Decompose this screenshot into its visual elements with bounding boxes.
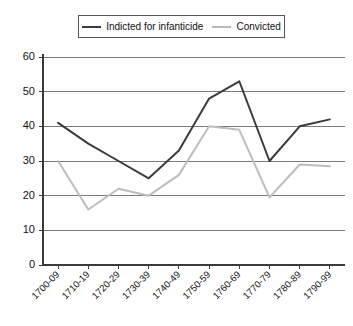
y-tick-label: 60 — [23, 50, 35, 62]
series-line-indicted — [58, 81, 330, 178]
x-tick-label: 1700-09 — [29, 269, 61, 301]
x-tick-label: 1780-89 — [271, 269, 303, 301]
legend-label-convicted: Convicted — [236, 21, 280, 32]
legend-entry-convicted: Convicted — [212, 21, 280, 32]
x-tick-label: 1760-69 — [210, 269, 242, 301]
y-tick-label: 0 — [29, 258, 35, 270]
x-tick-label: 1770-79 — [240, 269, 272, 301]
y-tick-label: 30 — [23, 154, 35, 166]
legend-entry-indicted: Indicted for infanticide — [82, 21, 203, 32]
y-tick-label: 40 — [23, 119, 35, 131]
y-tick-label: 50 — [23, 85, 35, 97]
line-swatch-dark-icon — [82, 26, 101, 28]
chart-svg: 0102030405060 1700-091710-191720-291730-… — [0, 46, 353, 326]
y-tick-label: 10 — [23, 223, 35, 235]
y-axis-ticks-group: 0102030405060 — [23, 50, 43, 270]
x-tick-label: 1710-19 — [59, 269, 91, 301]
legend-label-indicted: Indicted for infanticide — [106, 21, 203, 32]
x-axis-ticks-group: 1700-091710-191720-291730-391740-491750-… — [29, 265, 333, 301]
x-tick-label: 1720-29 — [89, 269, 121, 301]
x-tick-label: 1750-59 — [180, 269, 212, 301]
x-tick-label: 1790-99 — [301, 269, 333, 301]
x-tick-label: 1740-49 — [150, 269, 182, 301]
series-group — [58, 81, 330, 209]
y-tick-label: 20 — [23, 189, 35, 201]
x-tick-label: 1730-39 — [120, 269, 152, 301]
infanticide-line-chart: Indicted for infanticide Convicted 01020… — [0, 0, 353, 326]
plot-area: 0102030405060 1700-091710-191720-291730-… — [0, 46, 353, 326]
line-swatch-light-icon — [212, 26, 231, 28]
chart-legend: Indicted for infanticide Convicted — [78, 15, 285, 38]
